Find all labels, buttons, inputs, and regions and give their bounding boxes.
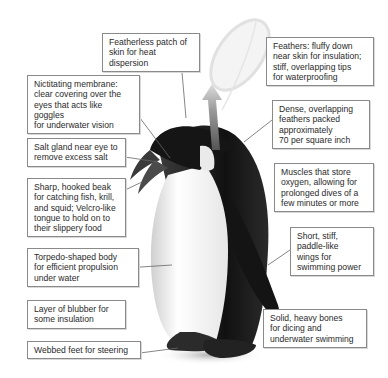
label-salt-gland: Salt gland near eye to remove excess sal… xyxy=(27,138,126,167)
label-feathers: Feathers: fluffy down near skin for insu… xyxy=(266,37,374,86)
label-nictitating-membrane: Nictitating membrane: clear covering ove… xyxy=(27,75,140,134)
penguin-diagram: Featherless patch of skin for heat dispe… xyxy=(0,0,388,378)
label-featherless-patch: Featherless patch of skin for heat dispe… xyxy=(102,33,200,72)
label-beak: Sharp, hooked beak for catching fish, kr… xyxy=(27,178,126,237)
label-muscles: Muscles that store oxygen, allowing for … xyxy=(274,163,374,212)
label-torpedo-body: Torpedo-shaped body for efficient propul… xyxy=(27,248,139,287)
label-wings: Short, stiff, paddle-like wings for swim… xyxy=(290,227,374,276)
label-webbed-feet: Webbed feet for steering xyxy=(27,341,141,359)
label-blubber: Layer of blubber for some insulation xyxy=(27,300,126,329)
label-dense-feathers: Dense, overlapping feathers packed appro… xyxy=(272,100,370,149)
label-bones: Solid, heavy bones for dicing and underw… xyxy=(263,309,367,348)
